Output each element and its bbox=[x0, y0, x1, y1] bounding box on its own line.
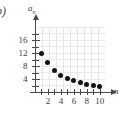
x-tick-label: 8 bbox=[85, 97, 90, 106]
y-tick bbox=[32, 86, 39, 87]
data-point bbox=[39, 51, 44, 56]
y-axis-line bbox=[35, 19, 36, 92]
data-point bbox=[52, 68, 57, 73]
part-label: b) bbox=[0, 5, 6, 18]
y-tick-label: 16 bbox=[19, 36, 28, 45]
x-tick bbox=[41, 89, 42, 95]
x-tick bbox=[67, 89, 68, 95]
y-tick: 8 bbox=[32, 66, 40, 67]
x-tick bbox=[80, 89, 81, 95]
x-tick-label: 2 bbox=[46, 97, 51, 106]
y-tick-label: 4 bbox=[23, 75, 28, 84]
x-tick bbox=[74, 89, 75, 95]
x-tick bbox=[61, 89, 62, 95]
y-tick: 16 bbox=[32, 40, 40, 41]
data-point bbox=[78, 80, 83, 85]
x-tick bbox=[54, 89, 55, 95]
data-point bbox=[65, 76, 70, 81]
x-tick bbox=[93, 89, 94, 95]
x-tick-label: 10 bbox=[95, 97, 104, 106]
y-tick: 4 bbox=[32, 79, 40, 80]
x-tick bbox=[100, 89, 101, 95]
y-tick-label: 12 bbox=[19, 49, 28, 58]
y-axis-title: an bbox=[28, 4, 36, 17]
y-tick bbox=[32, 34, 39, 35]
x-axis-title: n bbox=[114, 87, 119, 96]
x-tick-label: 4 bbox=[59, 97, 64, 106]
plot-area: an n 481216 246810 bbox=[35, 27, 105, 92]
y-tick bbox=[32, 73, 39, 74]
y-tick bbox=[32, 47, 39, 48]
y-tick bbox=[32, 60, 39, 61]
sequence-scatter-figure: b) an n 481216 246810 bbox=[0, 0, 123, 117]
data-point bbox=[91, 83, 96, 88]
y-tick-label: 8 bbox=[23, 62, 28, 71]
x-tick bbox=[48, 89, 49, 95]
x-tick-label: 6 bbox=[72, 97, 77, 106]
x-tick bbox=[87, 89, 88, 95]
